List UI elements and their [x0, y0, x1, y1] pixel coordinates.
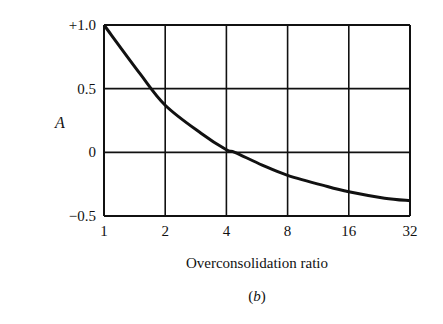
x-tick-label: 16 — [341, 223, 357, 239]
figure-caption: (b) — [248, 288, 266, 305]
y-tick-label: −0.5 — [69, 208, 96, 224]
chart: +1.00.50−0.5 12481632 A Overconsolidatio… — [0, 0, 443, 324]
y-axis-label: A — [54, 114, 65, 131]
x-axis-label: Overconsolidation ratio — [186, 255, 328, 271]
grid — [104, 25, 410, 216]
y-tick-label: 0.5 — [77, 81, 96, 97]
x-tick-label: 32 — [403, 223, 418, 239]
y-axis-ticks: +1.00.50−0.5 — [69, 17, 96, 224]
data-curve — [104, 25, 410, 201]
x-tick-label: 8 — [284, 223, 292, 239]
x-axis-ticks: 12481632 — [100, 223, 417, 239]
y-tick-label: 0 — [89, 144, 97, 160]
y-tick-label: +1.0 — [69, 17, 96, 33]
x-tick-label: 4 — [223, 223, 231, 239]
x-tick-label: 1 — [100, 223, 108, 239]
x-tick-label: 2 — [161, 223, 169, 239]
